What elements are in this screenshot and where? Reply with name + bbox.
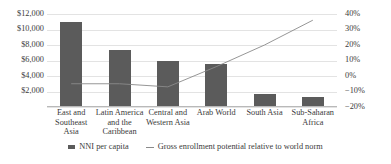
bar-swatch-icon: [68, 145, 75, 149]
legend-item-gross-enrollment: Gross enrollment potential relative to w…: [146, 142, 323, 152]
right-axis-tick-label: 20%: [345, 41, 360, 49]
chart-container: $2,000$4,000$6,000$8,000$10,000$12,000 −…: [0, 0, 391, 164]
x-axis-category-labels: East andSoutheastAsiaLatin Americaand th…: [47, 108, 337, 141]
plot-area: [47, 14, 337, 107]
chart-legend: NNI per capita Gross enrollment potentia…: [0, 142, 391, 152]
right-axis-tick-label: 40%: [345, 10, 360, 18]
right-axis-tick-label: 10%: [345, 56, 360, 64]
line-swatch-icon: [146, 147, 154, 148]
left-axis-tick-label: $10,000: [17, 25, 44, 33]
left-axis-tick-label: $6,000: [21, 56, 44, 64]
left-axis-tick-label: $8,000: [21, 41, 44, 49]
left-axis-tick-label: $12,000: [17, 10, 44, 18]
legend-label-gross-enrollment: Gross enrollment potential relative to w…: [158, 142, 323, 152]
left-axis-tick-label: $2,000: [21, 87, 44, 95]
category-label: Sub-SaharanAfrica: [283, 108, 343, 127]
right-axis-tick-label: 30%: [345, 25, 360, 33]
legend-item-nni-per-capita: NNI per capita: [68, 142, 128, 152]
x-axis-line: [47, 106, 337, 107]
line-series-gross-enrollment: [47, 14, 337, 107]
right-axis-tick-label: 0%: [345, 72, 356, 80]
right-axis-tick-label: −20%: [345, 103, 365, 111]
right-axis-tick-label: −10%: [345, 87, 365, 95]
legend-label-nni-per-capita: NNI per capita: [79, 142, 128, 152]
left-axis-tick-label: $4,000: [21, 72, 44, 80]
